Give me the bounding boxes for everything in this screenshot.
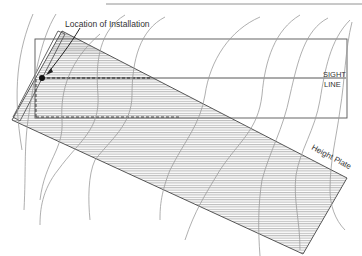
sight-line-label-1: SIGHT xyxy=(323,70,346,79)
installation-marker xyxy=(39,75,45,81)
installation-label: Location of Installation xyxy=(65,19,150,29)
sight-line-label-2: LINE xyxy=(324,80,341,89)
diagram-canvas: Location of Installation SIGHT LINE Heig… xyxy=(0,0,362,256)
